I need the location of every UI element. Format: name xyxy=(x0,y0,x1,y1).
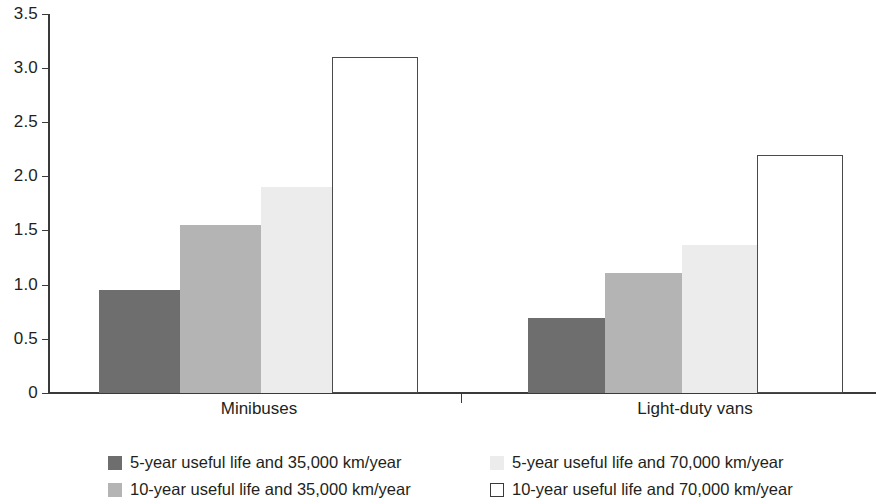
legend-swatch-mid-gray-icon xyxy=(108,483,122,497)
chart-legend: 5-year useful life and 35,000 km/year 5-… xyxy=(108,449,868,503)
legend-label-10yr-35000: 10-year useful life and 35,000 km/year xyxy=(130,481,411,498)
legend-label-5yr-70000: 5-year useful life and 70,000 km/year xyxy=(512,454,784,471)
legend-swatch-dark-gray-icon xyxy=(108,456,122,470)
legend-label-5yr-35000: 5-year useful life and 35,000 km/year xyxy=(130,454,402,471)
legend-swatch-light-gray-icon xyxy=(490,456,504,470)
bar-minibuses-series3 xyxy=(332,57,418,393)
bar-light-duty-vans-series2 xyxy=(682,245,759,393)
bar-light-duty-vans-series3 xyxy=(757,155,843,393)
plot-area: 3.5 3.0 2.5 2.0 1.5 1.0 0.5 0 xyxy=(0,0,884,440)
legend-item-5yr-35000: 5-year useful life and 35,000 km/year xyxy=(108,454,476,471)
x-axis-label-minibuses: Minibuses xyxy=(179,399,339,419)
bar-minibuses-series0 xyxy=(99,290,180,393)
legend-item-5yr-70000: 5-year useful life and 70,000 km/year xyxy=(490,454,858,471)
bars-layer xyxy=(0,0,884,393)
legend-item-10yr-70000: 10-year useful life and 70,000 km/year xyxy=(490,481,858,498)
legend-item-10yr-35000: 10-year useful life and 35,000 km/year xyxy=(108,481,476,498)
legend-swatch-white-outline-icon xyxy=(490,483,504,497)
bar-light-duty-vans-series0 xyxy=(528,318,605,393)
bar-minibuses-series2 xyxy=(261,187,342,393)
bar-minibuses-series1 xyxy=(180,225,261,393)
bar-chart: 3.5 3.0 2.5 2.0 1.5 1.0 0.5 0 xyxy=(0,0,884,503)
legend-label-10yr-70000: 10-year useful life and 70,000 km/year xyxy=(512,481,793,498)
x-axis-label-light-duty-vans: Light-duty vans xyxy=(605,399,785,419)
x-axis-group-separator-tick xyxy=(461,393,462,403)
bar-light-duty-vans-series1 xyxy=(605,273,682,393)
